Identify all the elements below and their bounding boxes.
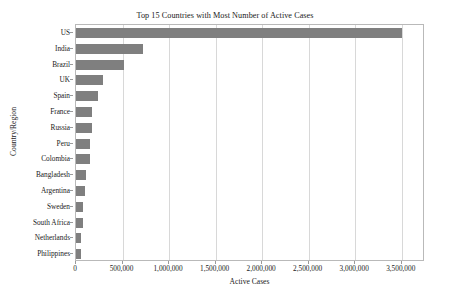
x-axis-tick-label: 1,500,000 [200, 264, 229, 273]
y-axis-tickmark [70, 158, 73, 159]
y-axis-tickmark [70, 143, 73, 144]
chart-title: Top 15 Countries with Most Number of Act… [0, 11, 450, 20]
bar [76, 170, 86, 180]
y-axis-label: Country/Region [9, 87, 18, 177]
y-axis-tickmark [70, 32, 73, 33]
y-axis-tickmark [70, 127, 73, 128]
x-axis-label: Active Cases [75, 277, 424, 286]
y-axis-tick-label: Peru [57, 138, 70, 147]
y-axis-tick-label: Bangladesh [36, 170, 70, 179]
y-axis-tick-label: South Africa [33, 217, 70, 226]
x-axis-tick-label: 2,000,000 [247, 264, 276, 273]
x-axis-tick-labels: 0500,0001,000,0001,500,0002,000,0002,500… [75, 264, 424, 278]
y-axis-tick-label: Sweden [47, 201, 70, 210]
y-axis-tick-label: Argentina [41, 185, 70, 194]
y-axis-tick-label: Russia [51, 122, 70, 131]
y-axis-tickmark [70, 253, 73, 254]
y-axis-tick-label: UK [59, 75, 70, 84]
y-axis-tickmark [70, 48, 73, 49]
plot-area [75, 24, 424, 261]
bar [76, 218, 83, 228]
bar [76, 91, 98, 101]
x-axis-tick-label: 500,000 [110, 264, 134, 273]
x-axis-tick-label: 3,500,000 [386, 264, 415, 273]
x-axis-tick-label: 2,500,000 [293, 264, 322, 273]
y-axis-tick-label: Philippines [37, 249, 70, 258]
bar [76, 60, 124, 70]
bar [76, 186, 85, 196]
y-axis-tick-label: Colombia [41, 154, 70, 163]
y-axis-tick-label: France [50, 106, 70, 115]
y-axis-tickmark [70, 79, 73, 80]
y-axis-tickmark [70, 174, 73, 175]
bar [76, 233, 81, 243]
y-axis-tickmark [70, 222, 73, 223]
y-axis-tickmark [70, 237, 73, 238]
bar [76, 202, 83, 212]
y-axis-tickmark [70, 111, 73, 112]
bar [76, 28, 402, 38]
x-axis-tick-label: 0 [73, 264, 77, 273]
x-axis-tick-label: 1,000,000 [153, 264, 182, 273]
y-axis-tickmark [70, 190, 73, 191]
bar [76, 249, 81, 259]
bar [76, 107, 92, 117]
y-axis-tickmark [70, 64, 73, 65]
bar [76, 154, 90, 164]
bar [76, 75, 103, 85]
y-axis-tick-label: Netherlands [35, 233, 70, 242]
y-axis-tickmark [70, 206, 73, 207]
bar-series [76, 25, 423, 260]
y-axis-tick-label: US [61, 27, 70, 36]
y-axis-tickmark [70, 95, 73, 96]
y-axis-tick-label: Brazil [52, 59, 70, 68]
chart-figure: Top 15 Countries with Most Number of Act… [0, 0, 450, 302]
bar [76, 123, 92, 133]
x-axis-tick-label: 3,000,000 [340, 264, 369, 273]
y-axis-tick-label: India [55, 43, 70, 52]
bar [76, 44, 143, 54]
y-axis-tick-label: Spain [53, 91, 70, 100]
bar [76, 139, 90, 149]
